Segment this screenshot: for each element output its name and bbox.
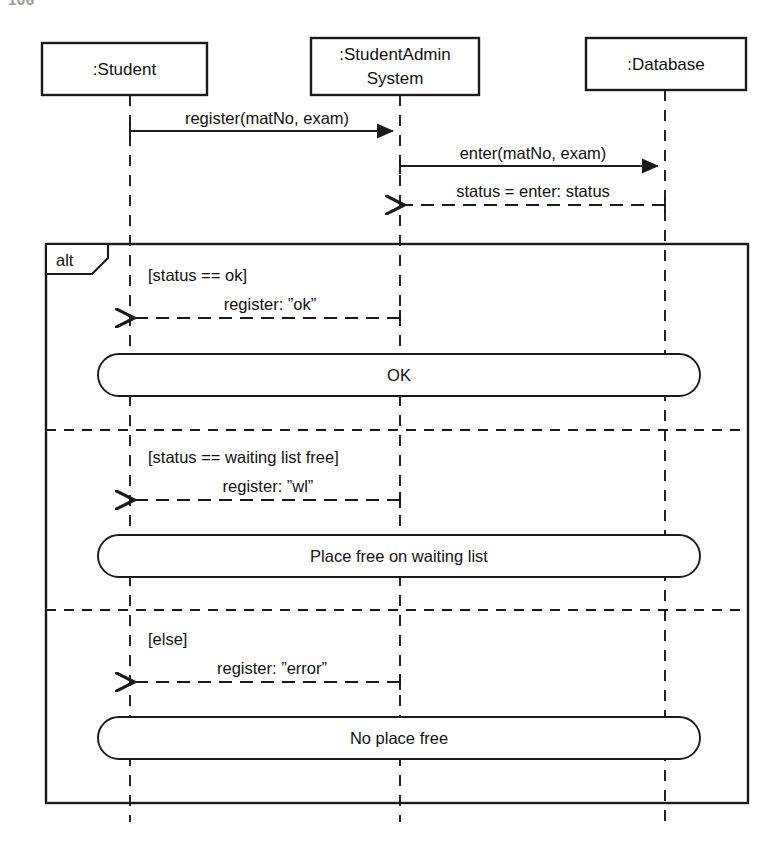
fragment-operand-2: [status == waiting list free] register: … — [98, 448, 700, 577]
message-status-return[interactable]: status = enter: status — [404, 182, 665, 213]
lifeline-label-student: :Student — [93, 60, 157, 79]
action-label-1: OK — [387, 366, 411, 384]
sequence-diagram-canvas: :Student :StudentAdmin System :Database … — [0, 0, 782, 853]
lifeline-label-database: :Database — [627, 55, 705, 74]
lifeline-label-studentadminsystem-line1: :StudentAdmin — [339, 45, 451, 64]
message-register-ok[interactable]: register: ”ok” — [134, 295, 400, 326]
message-label-status-return: status = enter: status — [456, 182, 610, 200]
lifeline-label-studentadminsystem-line2: System — [367, 69, 424, 88]
message-register[interactable]: register(matNo, exam) — [130, 109, 393, 139]
guard-condition-3: [else] — [148, 630, 187, 648]
message-label-register-ok: register: ”ok” — [224, 295, 317, 313]
message-register-wl[interactable]: register: ”wl” — [134, 477, 400, 508]
fragment-operator-label: alt — [56, 251, 74, 269]
lifeline-student[interactable]: :Student — [42, 43, 207, 822]
message-label-register-wl: register: ”wl” — [223, 477, 314, 495]
message-enter[interactable]: enter(matNo, exam) — [400, 144, 658, 174]
guard-condition-1: [status == ok] — [148, 266, 247, 284]
message-label-enter: enter(matNo, exam) — [460, 144, 607, 162]
fragment-operand-1: [status == ok] register: ”ok” OK — [98, 266, 700, 396]
guard-condition-2: [status == waiting list free] — [148, 448, 339, 466]
fragment-operand-3: [else] register: ”error” No place free — [98, 630, 700, 759]
message-label-register: register(matNo, exam) — [185, 109, 349, 127]
action-label-2: Place free on waiting list — [310, 547, 488, 565]
message-register-error[interactable]: register: ”error” — [134, 659, 400, 690]
action-label-3: No place free — [350, 729, 448, 747]
message-label-register-error: register: ”error” — [217, 659, 327, 677]
